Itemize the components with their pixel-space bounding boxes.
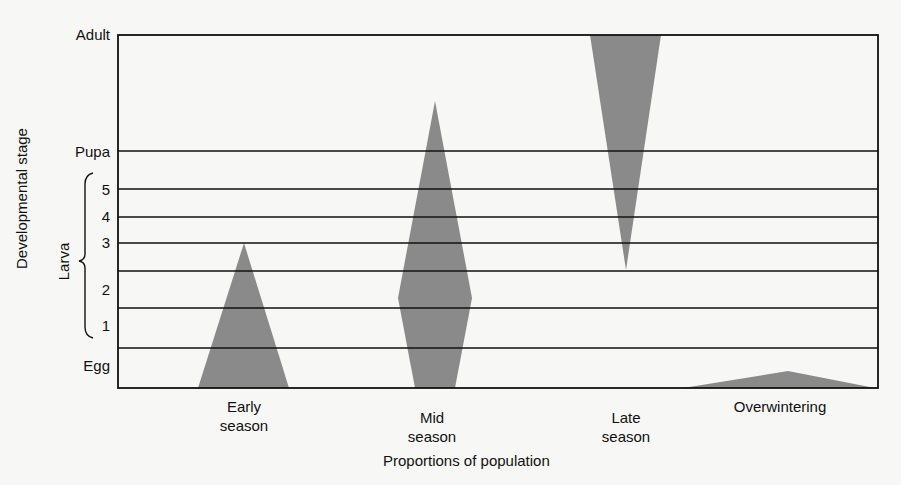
x-label-late-line1: Late [556, 409, 696, 426]
late-season-shape [590, 35, 661, 270]
y-label-egg: Egg [50, 357, 110, 374]
x-label-late-line2: season [556, 428, 696, 445]
early-season-shape [198, 243, 289, 388]
y-label-adult: Adult [50, 26, 110, 43]
y-axis-title: Developmental stage [13, 124, 30, 274]
y-label-larva-5: 5 [50, 181, 110, 198]
mid-season-shape [398, 101, 472, 388]
larva-group-label: Larva [55, 237, 72, 287]
y-label-larva-4: 4 [50, 208, 110, 225]
x-label-overwintering: Overwintering [710, 398, 850, 415]
overwintering-shape [683, 371, 875, 388]
y-label-pupa: Pupa [50, 143, 110, 160]
y-label-larva-1: 1 [50, 317, 110, 334]
x-label-mid-line1: Mid [362, 409, 502, 426]
x-label-early-line2: season [174, 417, 314, 434]
x-label-early-line1: Early [174, 398, 314, 415]
x-label-mid-line2: season [362, 428, 502, 445]
x-axis-title: Proportions of population [383, 452, 623, 469]
